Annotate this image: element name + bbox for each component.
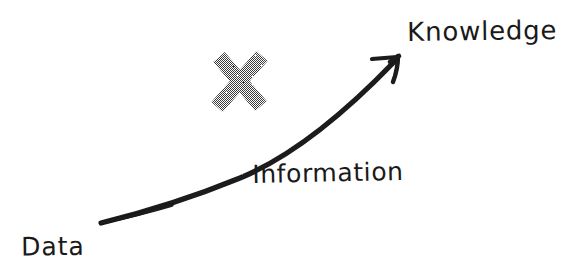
label-information: Information: [252, 159, 404, 187]
diagram-canvas: Data Information Knowledge: [0, 0, 566, 277]
label-knowledge: Knowledge: [407, 17, 557, 45]
curved-up-arrow-icon: [101, 56, 399, 223]
x-cross-icon: [217, 56, 262, 107]
label-data: Data: [21, 233, 85, 259]
